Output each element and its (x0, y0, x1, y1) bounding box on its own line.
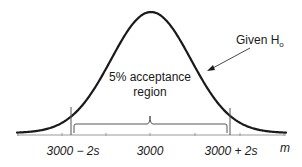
region-label-line2: region (133, 85, 166, 99)
given-h0-label: Given Ho (236, 33, 284, 49)
tick-label-minus-2s: 3000 − 2s (46, 144, 99, 158)
acceptance-bracket (74, 116, 227, 133)
tick-label-mean: 3000 (137, 144, 164, 158)
annotation-arrow-shaft (211, 48, 250, 69)
region-label-line1: 5% acceptance (109, 70, 191, 84)
normal-distribution-diagram: 5% acceptance region Given Ho 3000 − 2s … (0, 0, 302, 167)
x-axis-label: m (280, 141, 290, 155)
arrow-head-icon (207, 65, 215, 71)
tick-label-plus-2s: 3000 + 2s (204, 144, 257, 158)
